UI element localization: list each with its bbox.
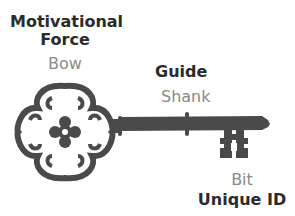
key-shank bbox=[120, 116, 270, 131]
skeleton-key-icon bbox=[0, 0, 295, 216]
